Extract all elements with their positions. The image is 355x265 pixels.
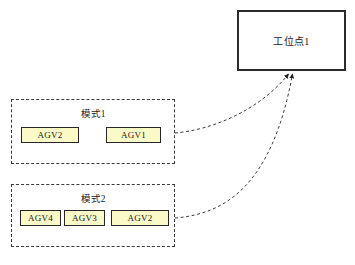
connector-mode1-to-station bbox=[175, 74, 289, 133]
connector-mode2-to-station bbox=[175, 74, 293, 218]
agv-chip[interactable]: AGV4 bbox=[20, 210, 61, 226]
mode-group-1-agv-row: AGV2 AGV1 bbox=[12, 100, 174, 163]
agv-chip[interactable]: AGV2 bbox=[21, 127, 79, 143]
diagram-canvas: 工位点1 模式1 AGV2 AGV1 模式2 AGV4 AGV3 AGV2 bbox=[0, 0, 355, 265]
mode-group-2-agv-row: AGV4 AGV3 AGV2 bbox=[12, 185, 174, 246]
agv-chip[interactable]: AGV3 bbox=[64, 210, 105, 226]
agv-chip[interactable]: AGV1 bbox=[106, 127, 161, 143]
station-node[interactable]: 工位点1 bbox=[237, 10, 346, 71]
agv-chip[interactable]: AGV2 bbox=[111, 210, 169, 226]
station-node-label: 工位点1 bbox=[273, 33, 309, 48]
mode-group-2[interactable]: 模式2 AGV4 AGV3 AGV2 bbox=[11, 184, 175, 247]
mode-group-1[interactable]: 模式1 AGV2 AGV1 bbox=[11, 99, 175, 164]
